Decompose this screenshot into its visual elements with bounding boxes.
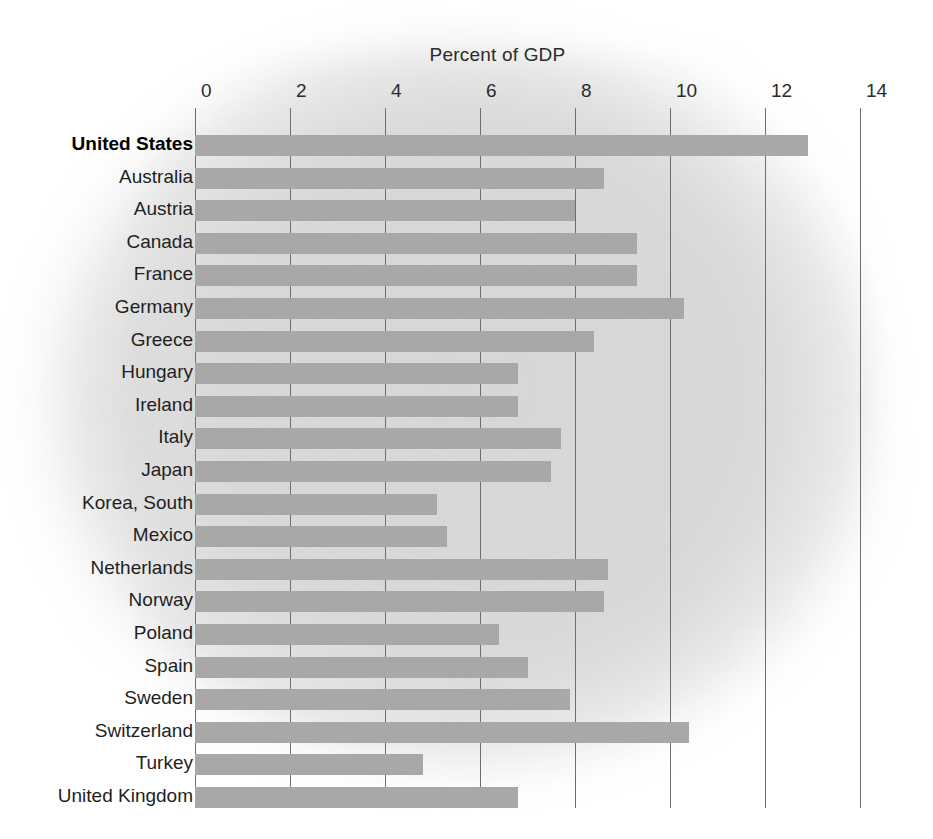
bar — [195, 233, 637, 254]
bar-row: Spain — [0, 652, 933, 684]
bar — [195, 461, 551, 482]
bar — [195, 657, 528, 678]
bar — [195, 559, 608, 580]
bar — [195, 265, 637, 286]
bar-row: Mexico — [0, 521, 933, 553]
bar — [195, 624, 499, 645]
bar — [195, 396, 518, 417]
bar — [195, 428, 561, 449]
bar — [195, 200, 575, 221]
category-label: Poland — [0, 622, 193, 644]
bar — [195, 722, 689, 743]
category-label: Sweden — [0, 687, 193, 709]
bar — [195, 363, 518, 384]
category-label: Greece — [0, 329, 193, 351]
bar-row: United Kingdom — [0, 782, 933, 814]
bar-row: Turkey — [0, 749, 933, 781]
bar-row: Italy — [0, 423, 933, 455]
category-label: Mexico — [0, 524, 193, 546]
bar-row: Sweden — [0, 684, 933, 716]
bar — [195, 689, 570, 710]
category-label: Norway — [0, 589, 193, 611]
bar-row: Germany — [0, 293, 933, 325]
category-label: Canada — [0, 231, 193, 253]
bar-row: Ireland — [0, 391, 933, 423]
bar-row: Korea, South — [0, 489, 933, 521]
category-label: Australia — [0, 166, 193, 188]
bar — [195, 298, 684, 319]
bar-row: Japan — [0, 456, 933, 488]
category-label: Hungary — [0, 361, 193, 383]
category-label: Ireland — [0, 394, 193, 416]
bar-row: Switzerland — [0, 717, 933, 749]
category-label: Netherlands — [0, 557, 193, 579]
bar-row: Poland — [0, 619, 933, 651]
category-label: Turkey — [0, 752, 193, 774]
bar-row: Austria — [0, 195, 933, 227]
bar-rows: United StatesAustraliaAustriaCanadaFranc… — [0, 0, 933, 839]
bar — [195, 135, 808, 156]
category-label: Austria — [0, 198, 193, 220]
bar-row: Norway — [0, 586, 933, 618]
category-label: Switzerland — [0, 720, 193, 742]
bar-row: United States — [0, 130, 933, 162]
bar-row: Netherlands — [0, 554, 933, 586]
bar — [195, 168, 604, 189]
category-label: Italy — [0, 426, 193, 448]
category-label: Spain — [0, 655, 193, 677]
bar-row: Canada — [0, 228, 933, 260]
category-label: Japan — [0, 459, 193, 481]
chart-figure: Percent of GDP 02468101214 United States… — [0, 0, 933, 839]
bar — [195, 494, 437, 515]
bar-row: Hungary — [0, 358, 933, 390]
bar — [195, 787, 518, 808]
bar — [195, 331, 594, 352]
bar-row: Greece — [0, 326, 933, 358]
bar — [195, 754, 423, 775]
bar-row: France — [0, 260, 933, 292]
category-label: Germany — [0, 296, 193, 318]
category-label: Korea, South — [0, 492, 193, 514]
category-label: France — [0, 263, 193, 285]
category-label: United States — [0, 133, 193, 155]
bar-row: Australia — [0, 163, 933, 195]
category-label: United Kingdom — [0, 785, 193, 807]
bar — [195, 591, 604, 612]
bar — [195, 526, 447, 547]
